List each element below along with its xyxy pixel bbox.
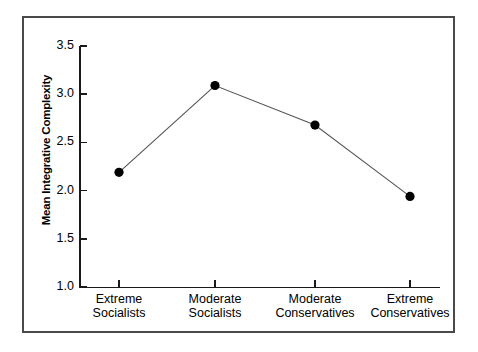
y-axis-title: Mean Integrative Complexity (38, 35, 54, 265)
figure-frame (22, 16, 455, 333)
